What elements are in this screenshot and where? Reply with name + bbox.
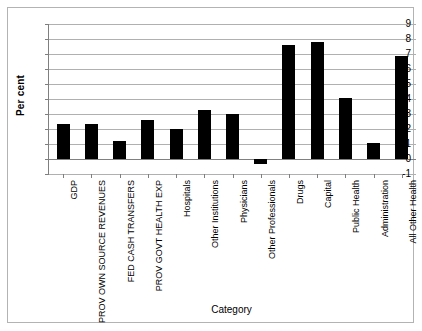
x-tick-mark [374, 174, 375, 178]
bar [85, 124, 98, 159]
x-tick-mark [91, 174, 92, 178]
y-tick-mark-0 [45, 159, 49, 160]
category-label: FED CASH TRANSFERS [124, 180, 138, 282]
bar [113, 141, 126, 159]
category-axis-labels: GDPPROV OWN SOURCE REVENUESFED CASH TRAN… [48, 180, 415, 298]
category-label: Other Professionals [265, 180, 279, 259]
category-label: GDP [67, 180, 81, 200]
gridline-7 [49, 54, 416, 55]
category-label: Administration [378, 180, 392, 237]
bar [57, 124, 70, 159]
bar [339, 98, 352, 160]
x-tick-mark [176, 174, 177, 178]
bar [311, 42, 324, 159]
x-tick-mark [120, 174, 121, 178]
y-tick-mark-2 [45, 129, 49, 130]
x-tick-mark [233, 174, 234, 178]
bar [141, 120, 154, 159]
y-tick-mark-6 [45, 69, 49, 70]
plot-area: 9876543210-1 [48, 24, 415, 174]
bar [226, 114, 239, 159]
y-tick-mark-5 [45, 84, 49, 85]
x-tick-mark [402, 174, 403, 178]
y-tick-label--1: -1 [383, 169, 411, 179]
x-tick-mark [345, 174, 346, 178]
gridline-6 [49, 69, 416, 70]
y-axis-title-text: Per cent [16, 74, 27, 115]
category-label: Public Health [349, 180, 363, 233]
gridline-0 [49, 159, 416, 160]
bar [282, 45, 295, 159]
x-tick-mark [317, 174, 318, 178]
category-label: Drugs [293, 180, 307, 204]
chart-frame: Per cent 9876543210-1 GDPPROV OWN SOURCE… [7, 7, 414, 323]
y-tick-mark-3 [45, 114, 49, 115]
gridline-9 [49, 24, 416, 25]
x-tick-mark [261, 174, 262, 178]
category-label: Physicians [237, 180, 251, 223]
y-tick-mark-8 [45, 39, 49, 40]
category-label: PROV GOVT HEALTH EXP [152, 180, 166, 291]
y-axis-title: Per cent [14, 50, 28, 140]
x-axis-title: Category [48, 304, 415, 315]
x-tick-mark [148, 174, 149, 178]
category-label: Capital [321, 180, 335, 208]
category-label: PROV OWN SOURCE REVENUES [95, 180, 109, 323]
bar [170, 129, 183, 159]
x-tick-mark [289, 174, 290, 178]
y-tick-mark--1 [45, 174, 49, 175]
x-tick-mark [204, 174, 205, 178]
y-tick-mark-4 [45, 99, 49, 100]
y-tick-label-9: 9 [383, 19, 411, 29]
category-label: Other Institutions [208, 180, 222, 248]
bar [367, 143, 380, 160]
gridline-4 [49, 99, 416, 100]
gridline-5 [49, 84, 416, 85]
y-tick-mark-9 [45, 24, 49, 25]
gridline-8 [49, 39, 416, 40]
x-tick-mark [63, 174, 64, 178]
y-tick-mark-7 [45, 54, 49, 55]
bar [395, 56, 408, 160]
y-tick-mark-1 [45, 144, 49, 145]
bar [198, 110, 211, 160]
category-label: All Other Health [406, 180, 420, 244]
category-label: Hospitals [180, 180, 194, 217]
y-tick-label-8: 8 [383, 34, 411, 44]
bar [254, 159, 267, 164]
